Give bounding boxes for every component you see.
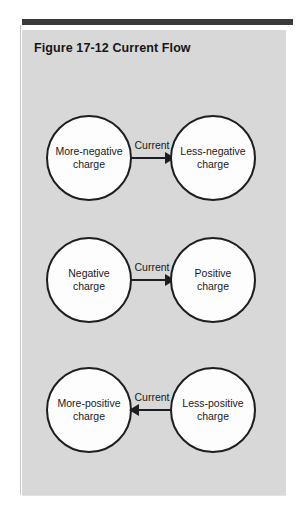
node-label: Negative charge xyxy=(48,267,130,293)
flow-row-1: More-negative charge Current Less-negati… xyxy=(22,113,286,203)
connector-3: Current xyxy=(130,365,174,455)
node-label: More-negative charge xyxy=(48,145,130,171)
node-label: Less-negative charge xyxy=(172,145,254,171)
figure-panel: Figure 17-12 Current Flow More-negative … xyxy=(22,30,286,495)
arrow-label-current: Current xyxy=(134,261,169,273)
figure-page: Figure 17-12 Current Flow More-negative … xyxy=(0,0,301,513)
figure-title: Figure 17-12 Current Flow xyxy=(34,41,191,55)
node-label: More-positive charge xyxy=(48,397,130,423)
arrow-head-left-icon xyxy=(129,404,139,416)
node-positive-charge: Positive charge xyxy=(170,237,256,323)
panel-bottom-edge xyxy=(22,495,286,496)
arrow-label-current: Current xyxy=(134,139,169,151)
node-more-positive-charge: More-positive charge xyxy=(46,367,132,453)
top-rule-divider xyxy=(22,19,293,25)
connector-2: Current xyxy=(130,235,174,325)
node-more-negative-charge: More-negative charge xyxy=(46,115,132,201)
node-label: Less-positive charge xyxy=(172,397,254,423)
connector-1: Current xyxy=(130,113,174,203)
node-less-positive-charge: Less-positive charge xyxy=(170,367,256,453)
node-less-negative-charge: Less-negative charge xyxy=(170,115,256,201)
flow-row-2: Negative charge Current Positive charge xyxy=(22,235,286,325)
node-negative-charge: Negative charge xyxy=(46,237,132,323)
left-border-line xyxy=(20,25,21,495)
node-label: Positive charge xyxy=(172,267,254,293)
arrow-label-current: Current xyxy=(134,391,169,403)
flow-row-3: More-positive charge Current Less-positi… xyxy=(22,365,286,455)
